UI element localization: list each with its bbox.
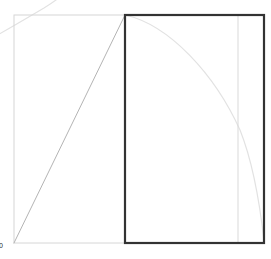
plot-background [0,0,271,259]
figure-canvas: 0 [0,0,271,259]
geometric-figure [0,0,271,259]
origin-axis-label: 0 [0,242,3,249]
